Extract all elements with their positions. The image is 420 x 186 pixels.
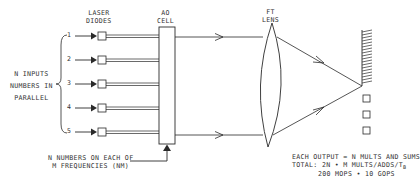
input-index-2: 2 xyxy=(67,56,71,63)
input-row-5 xyxy=(75,128,159,136)
input-row-4 xyxy=(75,104,159,112)
laser-diode-icon xyxy=(91,81,97,88)
label-line: DIODES xyxy=(86,17,112,25)
output-detector-3 xyxy=(363,127,370,134)
label-line: NUMBERS IN xyxy=(10,80,53,92)
input-row-1 xyxy=(75,32,159,40)
summary-text: EACH OUTPUT = N MULTS AND SUMS TOTAL: 2N… xyxy=(292,154,420,179)
summary-line-3: 200 MOPS • 10 GOPS xyxy=(292,171,420,179)
laser-diode-icon xyxy=(91,33,97,40)
input-index-3: 3 xyxy=(67,80,71,87)
label-line: CELL xyxy=(157,17,174,25)
up-arrow-icon xyxy=(163,145,171,152)
label-line: FT xyxy=(262,8,279,16)
label-line: LENS xyxy=(262,16,279,24)
summary-subscript: B xyxy=(403,164,406,170)
ft-lens xyxy=(260,23,281,147)
ao-input-label: N NUMBERS ON EACH OF M FREQUENCIES (NM) xyxy=(48,154,133,170)
label-line: AO xyxy=(157,9,174,17)
ao-cell xyxy=(159,27,175,144)
label-line: N NUMBERS ON EACH OF xyxy=(48,154,133,162)
summary-line-2-text: TOTAL: 2N • M MULTS/ADDS/T xyxy=(292,161,403,169)
laser-diode-icon xyxy=(91,129,97,136)
detector-plane xyxy=(362,30,372,86)
input-index-4: 4 xyxy=(67,104,71,111)
laser-diodes-label: LASER DIODES xyxy=(86,9,112,25)
input-index-1: 1 xyxy=(67,32,71,39)
input-row-2 xyxy=(75,56,159,64)
output-detector-2 xyxy=(363,111,370,118)
ao-input-line xyxy=(130,150,167,161)
ft-lens-label: FT LENS xyxy=(262,8,279,24)
input-brace xyxy=(56,35,67,133)
laser-diode-icon xyxy=(91,57,97,64)
output-detector-1 xyxy=(363,95,370,102)
input-row-3 xyxy=(75,80,159,88)
label-line: M FREQUENCIES (NM) xyxy=(48,162,133,170)
ao-cell-label: AO CELL xyxy=(157,9,174,25)
label-line: PARALLEL xyxy=(10,92,53,104)
label-line: LASER xyxy=(86,9,112,17)
input-index-5: 5 xyxy=(67,128,71,135)
n-inputs-label: N INPUTS NUMBERS IN PARALLEL xyxy=(10,68,53,104)
laser-diode-icon xyxy=(91,105,97,112)
label-line: N INPUTS xyxy=(10,68,53,80)
